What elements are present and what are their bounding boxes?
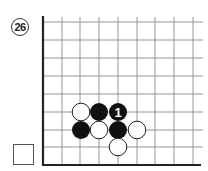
black-stone [72, 121, 90, 139]
white-stone [72, 103, 90, 121]
white-stone [90, 121, 108, 139]
white-stone [128, 121, 146, 139]
black-stone [109, 121, 127, 139]
answer-checkbox[interactable] [13, 144, 34, 165]
move-number-label: 1 [114, 105, 121, 120]
black-stone [90, 103, 108, 121]
stones: 1 [72, 103, 146, 156]
white-stone [109, 138, 127, 156]
